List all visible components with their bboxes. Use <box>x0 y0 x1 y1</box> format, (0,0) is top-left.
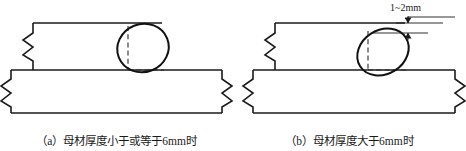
lower-plate-break-line-right <box>455 70 465 113</box>
panel-a-lower-plate <box>1 70 232 113</box>
panel-b-drawing <box>243 16 465 113</box>
panel-b-upper-plate <box>265 23 405 70</box>
lower-plate-break-line-left <box>1 70 11 113</box>
lower-plate-break-line-left <box>243 70 253 113</box>
figure-canvas <box>0 0 466 151</box>
welding-detail-figure: 1~2mm （a）母材厚度小于或等于6mm时 （b）母材厚度大于6mm时 <box>0 0 466 151</box>
panel-a-caption: （a）母材厚度小于或等于6mm时 <box>0 134 233 148</box>
panel-b-weld-bead <box>348 19 417 85</box>
gap-dimension-label: 1~2mm <box>390 2 421 14</box>
panel-a-upper-plate <box>23 23 162 70</box>
weld-bead-outline <box>348 19 417 85</box>
panel-b-caption: （b）母材厚度大于6mm时 <box>233 134 466 148</box>
lower-plate-break-line-right <box>222 70 232 113</box>
upper-plate-break-line <box>265 23 275 70</box>
panel-a-hidden-edges <box>128 26 164 70</box>
panel-b-lower-plate <box>243 70 465 113</box>
panel-a-drawing <box>1 16 232 113</box>
panel-b-hidden-edges <box>368 31 406 70</box>
upper-plate-break-line <box>23 23 33 70</box>
